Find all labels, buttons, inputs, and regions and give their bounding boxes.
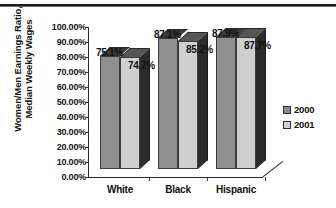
y-axis-tick-label: 50.00%	[32, 98, 86, 107]
y-axis-tick-label: 100.00%	[32, 23, 86, 32]
legend-label-2000: 2000	[294, 105, 314, 115]
y-axis-tick-labels: 100.00%90.00%80.00%70.00%60.00%50.00%40.…	[32, 22, 86, 182]
bar-hispanic-2001	[236, 37, 256, 169]
data-label-white-2000: 75.1%	[96, 47, 123, 58]
bar-front-face	[158, 38, 178, 169]
page-top-rule-shadow	[0, 6, 336, 7]
data-label-hispanic-2000: 87.9%	[212, 28, 239, 39]
bar-black-2000	[158, 38, 178, 169]
x-axis-label-white: White	[90, 184, 150, 196]
y-axis-tick-label: 0.00%	[32, 173, 86, 182]
legend-item-2000: 2000	[283, 105, 333, 115]
x-axis-label-hispanic: Hispanic	[206, 184, 266, 196]
data-label-black-2000: 87.1%	[154, 29, 181, 40]
bar-front-face	[216, 37, 236, 169]
y-axis-tick-label: 10.00%	[32, 158, 86, 167]
bar-front-face	[178, 41, 198, 169]
y-axis-tick-label: 70.00%	[32, 68, 86, 77]
bar-white-2001	[120, 57, 140, 169]
y-axis-tick-label: 20.00%	[32, 143, 86, 152]
legend-swatch-2001	[283, 121, 291, 129]
bar-hispanic-2000	[216, 37, 236, 169]
legend-item-2001: 2001	[283, 120, 333, 130]
y-axis-tick-label: 80.00%	[32, 53, 86, 62]
y-axis-tick-label: 30.00%	[32, 128, 86, 137]
data-label-hispanic-2001: 87.7%	[244, 40, 271, 51]
bar-black-2001	[178, 41, 198, 169]
y-axis-tick-label: 90.00%	[32, 38, 86, 47]
bar-front-face	[236, 37, 256, 169]
bar-front-face	[120, 57, 140, 169]
legend-label-2001: 2001	[294, 120, 314, 130]
legend-swatch-2000	[283, 106, 291, 114]
data-label-black-2001: 85.2%	[186, 44, 213, 55]
bar-front-face	[100, 56, 120, 169]
bar-white-2000	[100, 56, 120, 169]
chart-legend: 20002001	[283, 105, 333, 135]
y-axis-tick-label: 60.00%	[32, 83, 86, 92]
y-axis-tick-label: 40.00%	[32, 113, 86, 122]
data-label-white-2001: 74.7%	[128, 60, 155, 71]
chart-figure: Women/Men Earnings Ratio, Median Weekly …	[0, 0, 336, 208]
x-axis-label-black: Black	[148, 184, 208, 196]
